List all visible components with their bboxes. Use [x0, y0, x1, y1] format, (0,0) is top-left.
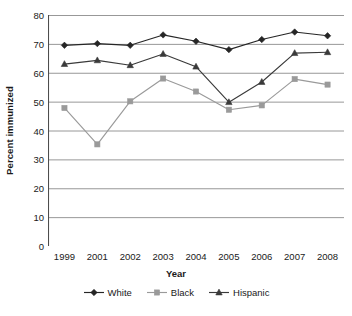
x-tick-2006: 2006: [251, 251, 272, 262]
x-tick-2005: 2005: [218, 251, 239, 262]
legend-label: Hispanic: [233, 287, 269, 298]
legend-item-black[interactable]: Black: [146, 287, 194, 298]
legend-item-hispanic[interactable]: Hispanic: [208, 287, 269, 298]
chart-legend: WhiteBlackHispanic: [0, 287, 352, 298]
legend-label: Black: [171, 287, 194, 298]
chart-figure: Percent immunized 01020304050607080 1999…: [0, 0, 352, 316]
caption-clipped: [0, 310, 352, 316]
legend-marker-diamond-icon: [83, 287, 105, 298]
x-tick-2003: 2003: [153, 251, 174, 262]
x-axis-title: Year: [0, 268, 352, 279]
x-tick-2007: 2007: [284, 251, 305, 262]
x-tick-2004: 2004: [185, 251, 206, 262]
x-axis-title-text: Year: [166, 268, 186, 279]
legend-label: White: [108, 287, 132, 298]
legend-marker-square-icon: [146, 287, 168, 298]
legend-marker-triangle-icon: [208, 287, 230, 298]
legend-item-white[interactable]: White: [83, 287, 132, 298]
x-tick-2002: 2002: [120, 251, 141, 262]
x-tick-2008: 2008: [317, 251, 338, 262]
x-tick-1999: 1999: [54, 251, 75, 262]
x-tick-2001: 2001: [87, 251, 108, 262]
